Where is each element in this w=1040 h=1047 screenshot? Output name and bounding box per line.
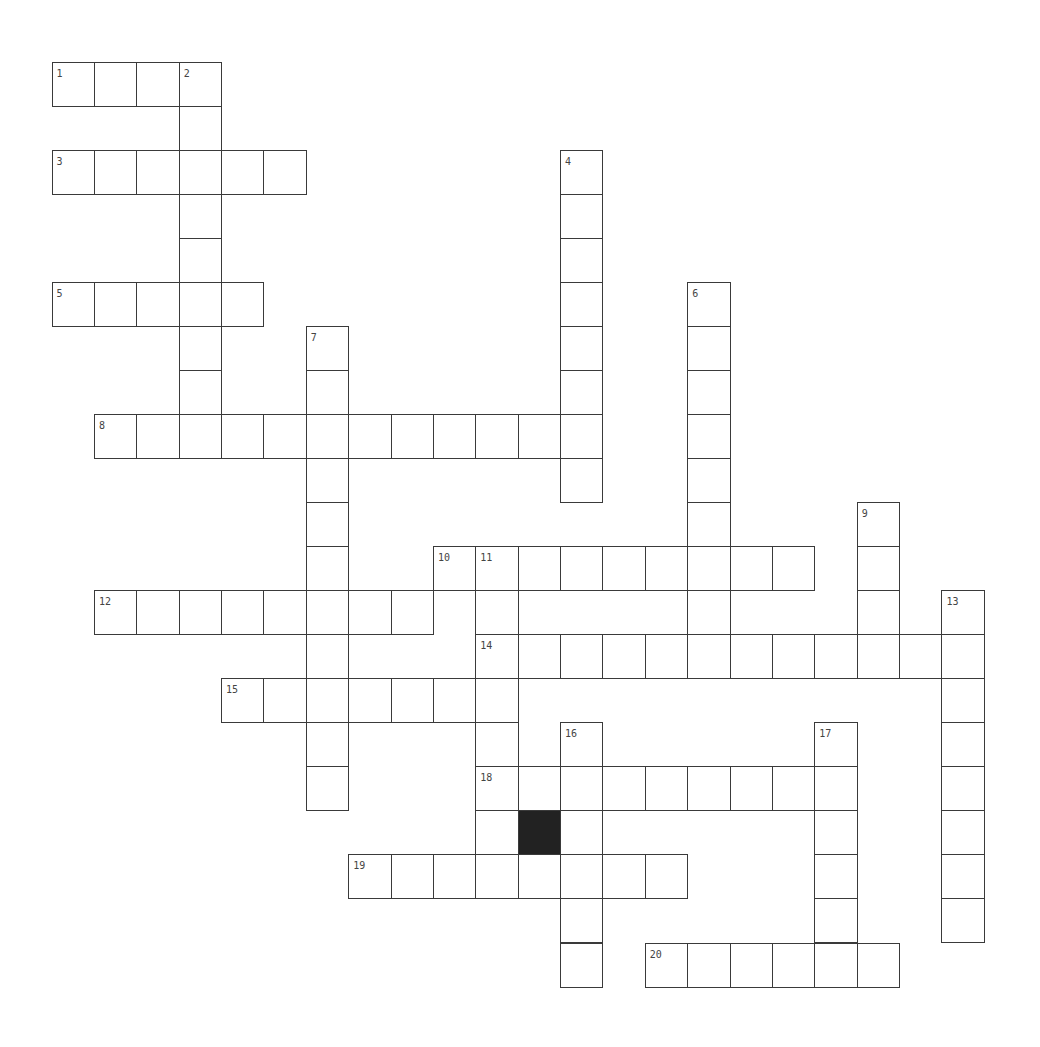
crossword-cell[interactable]	[560, 282, 603, 327]
crossword-cell[interactable]	[814, 634, 857, 679]
crossword-cell[interactable]	[730, 943, 773, 988]
crossword-cell[interactable]	[136, 590, 179, 635]
crossword-cell[interactable]	[602, 854, 645, 899]
letter-input[interactable]	[476, 811, 517, 854]
letter-input[interactable]	[561, 547, 602, 590]
letter-input[interactable]	[349, 415, 390, 458]
letter-input[interactable]	[646, 547, 687, 590]
crossword-cell[interactable]	[179, 150, 222, 195]
letter-input[interactable]	[773, 767, 814, 810]
crossword-cell[interactable]	[136, 62, 179, 107]
crossword-cell[interactable]	[179, 282, 222, 327]
letter-input[interactable]	[264, 591, 305, 634]
letter-input[interactable]	[688, 767, 729, 810]
letter-input[interactable]	[137, 63, 178, 106]
letter-input[interactable]	[731, 547, 772, 590]
crossword-cell[interactable]	[687, 634, 730, 679]
crossword-cell[interactable]: 4	[560, 150, 603, 195]
letter-input[interactable]	[137, 283, 178, 326]
crossword-cell[interactable]	[433, 678, 476, 723]
crossword-cell[interactable]	[814, 898, 857, 943]
crossword-cell[interactable]	[179, 194, 222, 239]
letter-input[interactable]	[180, 195, 221, 238]
crossword-cell[interactable]	[348, 678, 391, 723]
letter-input[interactable]	[307, 503, 348, 546]
crossword-cell[interactable]: 15	[221, 678, 264, 723]
crossword-cell[interactable]	[136, 282, 179, 327]
letter-input[interactable]	[307, 547, 348, 590]
letter-input[interactable]	[476, 591, 517, 634]
letter-input[interactable]	[942, 811, 983, 854]
letter-input[interactable]	[773, 635, 814, 678]
letter-input[interactable]	[561, 944, 602, 987]
letter-input[interactable]	[942, 899, 983, 942]
crossword-cell[interactable]	[899, 634, 942, 679]
letter-input[interactable]	[180, 151, 221, 194]
letter-input[interactable]	[519, 855, 560, 898]
crossword-cell[interactable]	[730, 634, 773, 679]
letter-input[interactable]	[137, 151, 178, 194]
crossword-cell[interactable]	[518, 854, 561, 899]
crossword-cell[interactable]: 3	[52, 150, 95, 195]
letter-input[interactable]	[180, 107, 221, 150]
letter-input[interactable]	[307, 591, 348, 634]
crossword-cell[interactable]	[391, 678, 434, 723]
crossword-cell[interactable]: 5	[52, 282, 95, 327]
letter-input[interactable]	[264, 415, 305, 458]
crossword-cell[interactable]	[560, 766, 603, 811]
crossword-cell[interactable]	[518, 634, 561, 679]
letter-input[interactable]	[519, 547, 560, 590]
crossword-cell[interactable]	[687, 590, 730, 635]
letter-input[interactable]	[688, 327, 729, 370]
crossword-cell[interactable]	[602, 546, 645, 591]
crossword-cell[interactable]	[814, 943, 857, 988]
letter-input[interactable]	[688, 503, 729, 546]
letter-input[interactable]	[264, 679, 305, 722]
crossword-cell[interactable]: 2	[179, 62, 222, 107]
letter-input[interactable]	[519, 767, 560, 810]
crossword-cell[interactable]	[687, 546, 730, 591]
letter-input[interactable]	[180, 591, 221, 634]
letter-input[interactable]	[180, 371, 221, 414]
crossword-cell[interactable]	[857, 546, 900, 591]
crossword-cell[interactable]	[306, 414, 349, 459]
crossword-cell[interactable]	[941, 678, 984, 723]
crossword-cell[interactable]	[857, 634, 900, 679]
crossword-cell[interactable]	[306, 634, 349, 679]
crossword-cell[interactable]	[687, 943, 730, 988]
letter-input[interactable]	[476, 679, 517, 722]
crossword-cell[interactable]	[94, 62, 137, 107]
crossword-cell[interactable]	[687, 414, 730, 459]
crossword-cell[interactable]	[179, 106, 222, 151]
letter-input[interactable]	[307, 459, 348, 502]
letter-input[interactable]	[434, 855, 475, 898]
crossword-cell[interactable]: 20	[645, 943, 688, 988]
crossword-cell[interactable]	[179, 326, 222, 371]
letter-input[interactable]	[942, 855, 983, 898]
crossword-cell[interactable]	[348, 414, 391, 459]
letter-input[interactable]	[561, 371, 602, 414]
letter-input[interactable]	[222, 283, 263, 326]
letter-input[interactable]	[349, 591, 390, 634]
crossword-cell[interactable]	[941, 634, 984, 679]
letter-input[interactable]	[858, 944, 899, 987]
letter-input[interactable]	[815, 944, 856, 987]
crossword-cell[interactable]	[221, 150, 264, 195]
crossword-cell[interactable]	[730, 766, 773, 811]
letter-input[interactable]	[815, 855, 856, 898]
crossword-cell[interactable]	[136, 150, 179, 195]
crossword-cell[interactable]	[560, 810, 603, 855]
crossword-cell[interactable]	[475, 810, 518, 855]
crossword-cell[interactable]	[560, 943, 603, 988]
crossword-cell[interactable]	[814, 766, 857, 811]
letter-input[interactable]	[392, 591, 433, 634]
letter-input[interactable]	[688, 591, 729, 634]
crossword-cell[interactable]: 19	[348, 854, 391, 899]
letter-input[interactable]	[561, 283, 602, 326]
crossword-cell[interactable]	[814, 810, 857, 855]
letter-input[interactable]	[688, 944, 729, 987]
letter-input[interactable]	[392, 855, 433, 898]
letter-input[interactable]	[942, 723, 983, 766]
letter-input[interactable]	[773, 944, 814, 987]
crossword-cell[interactable]	[306, 766, 349, 811]
